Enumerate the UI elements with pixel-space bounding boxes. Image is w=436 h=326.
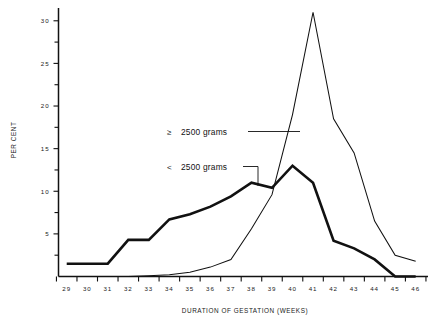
legend-label-lt-2500g: 2500 grams: [181, 162, 227, 172]
y-tick-label: 25: [41, 60, 50, 67]
x-tick-label: 35: [186, 285, 195, 292]
chart-canvas: 51015202530 2930313233343536373839404142…: [0, 0, 436, 326]
x-tick-label: 42: [329, 285, 338, 292]
x-tick-label: 34: [165, 285, 174, 292]
x-tick-label: 37: [227, 285, 236, 292]
x-tick-label: 38: [247, 285, 256, 292]
y-axis-title: PER CENT: [10, 122, 17, 159]
x-tick-label: 45: [391, 285, 400, 292]
x-tick-label: 29: [62, 285, 71, 292]
y-tick-label: 20: [41, 102, 50, 109]
x-axis-tick-labels: 293031323334353637383940414243444546: [62, 285, 420, 292]
x-tick-label: 31: [103, 285, 112, 292]
gestation-percent-chart: 51015202530 2930313233343536373839404142…: [0, 0, 436, 326]
x-tick-label: 40: [288, 285, 297, 292]
x-tick-label: 33: [144, 285, 153, 292]
x-tick-label: 43: [350, 285, 359, 292]
legend-symbol-ge: ≥: [167, 128, 172, 137]
x-tick-label: 32: [124, 285, 133, 292]
legend-symbol-lt: <: [167, 163, 172, 172]
series-line-ge-2500g: [67, 12, 416, 276]
y-tick-label: 30: [41, 17, 50, 24]
x-tick-label: 46: [411, 285, 420, 292]
x-tick-label: 44: [370, 285, 379, 292]
y-tick-label: 5: [45, 230, 49, 237]
y-tick-label: 10: [41, 188, 50, 195]
axis-group: [59, 8, 429, 277]
y-axis-tick-labels: 51015202530: [41, 17, 50, 237]
x-tick-label: 41: [309, 285, 318, 292]
y-tick-label: 15: [41, 145, 50, 152]
x-tick-label: 39: [268, 285, 277, 292]
x-tick-label: 36: [206, 285, 215, 292]
x-axis-title: DURATION OF GESTATION (WEEKS): [182, 307, 308, 315]
x-tick-label: 30: [83, 285, 92, 292]
legend-label-ge-2500g: 2500 grams: [181, 127, 227, 137]
